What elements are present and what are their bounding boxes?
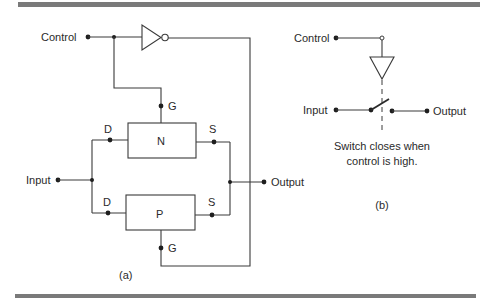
panel-b-control-node-icon [380, 36, 384, 40]
n-drain-label: D [104, 123, 112, 135]
panel-a-output-label: Output [271, 176, 304, 188]
panel-a-control-label: Control [41, 31, 76, 43]
switch-note-line1: Switch closes when [334, 140, 430, 152]
transmission-gate-figure: Control G N D S P D S G Input [0, 0, 494, 303]
output-junction-dot [228, 180, 232, 184]
input-junction-dot [90, 178, 94, 182]
panel-b-caption: (b) [375, 199, 388, 211]
switch-blade-icon [371, 99, 389, 110]
panel-a-transmission-gate: Control G N D S P D S G Input [26, 25, 304, 281]
panel-b-control-label: Control [294, 32, 329, 44]
panel-b-output-label: Output [433, 105, 466, 117]
p-transistor-label: P [156, 208, 163, 220]
buffer-icon [370, 57, 394, 79]
n-source-label: S [209, 123, 216, 135]
n-drain-dot [108, 138, 113, 143]
panel-a-input-label: Input [26, 174, 50, 186]
panel-b-input-label: Input [303, 104, 327, 116]
p-gate-label: G [168, 242, 177, 254]
p-drain-label: D [103, 196, 111, 208]
p-source-label: S [208, 196, 215, 208]
panel-b-switch-equivalent: Control Input Output Switch closes when … [294, 32, 466, 211]
p-gate-dot [159, 246, 164, 251]
inverter-bubble-icon [162, 34, 168, 40]
panel-a-caption: (a) [119, 269, 132, 281]
n-source-dot [212, 140, 217, 145]
top-rule [18, 2, 480, 7]
bottom-rule [15, 294, 476, 298]
n-gate-label: G [168, 100, 177, 112]
p-source-dot [210, 213, 215, 218]
inverter-icon [142, 25, 161, 50]
p-drain-dot [106, 211, 111, 216]
n-gate-dot [159, 104, 164, 109]
panel-b-output-dot [425, 109, 430, 114]
switch-note-line2: control is high. [347, 155, 418, 167]
n-transistor-label: N [157, 135, 165, 147]
output-terminal-dot [262, 180, 267, 185]
